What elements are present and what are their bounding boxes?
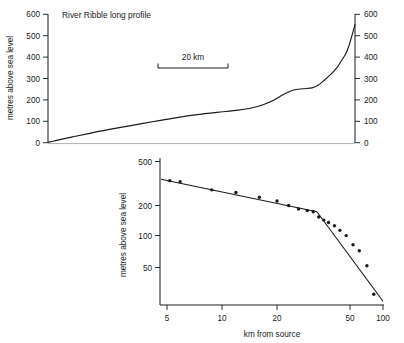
data-point — [372, 292, 375, 295]
upper-left-tick-label: 600 — [26, 10, 40, 19]
data-point — [358, 249, 361, 252]
data-point — [306, 209, 309, 212]
data-point — [258, 196, 261, 199]
upper-chart-ylabel: metres above sea level — [6, 36, 15, 120]
data-point — [210, 188, 213, 191]
data-point — [317, 215, 320, 218]
upper-left-tick-label: 200 — [26, 96, 40, 105]
lower-reach-fit-line — [317, 212, 383, 302]
upper-reach-fit-line — [161, 179, 317, 211]
river-long-profile-curve — [48, 25, 355, 143]
lower-y-tick-label: 50 — [143, 264, 153, 273]
data-point — [234, 191, 237, 194]
scale-bar: 20 km — [158, 53, 228, 68]
upper-left-tick-label: 400 — [26, 53, 40, 62]
data-point — [322, 218, 325, 221]
upper-left-tick-label: 0 — [35, 139, 40, 148]
upper-right-tick-label: 100 — [364, 117, 378, 126]
upper-left-ticks: 600 500 400 300 200 100 0 — [26, 10, 48, 147]
data-point — [338, 229, 341, 232]
scale-bar-label: 20 km — [182, 53, 204, 62]
data-point — [275, 199, 278, 202]
data-point — [344, 234, 347, 237]
data-point — [327, 221, 330, 224]
lower-x-tick-label: 20 — [272, 314, 282, 323]
upper-left-tick-label: 300 — [26, 75, 40, 84]
upper-left-tick-label: 100 — [26, 117, 40, 126]
lower-x-tick-label: 50 — [345, 314, 355, 323]
figure-svg: River Ribble long profile metres above s… — [0, 0, 404, 343]
lower-x-ticks: 5 10 20 50 100 — [165, 305, 391, 323]
data-point — [297, 207, 300, 210]
lower-chart: metres above sea level 500 200 100 50 5 … — [119, 158, 390, 340]
lower-x-tick-label: 5 — [165, 314, 170, 323]
upper-right-tick-label: 200 — [364, 96, 378, 105]
upper-right-tick-label: 0 — [364, 139, 369, 148]
data-point — [365, 264, 368, 267]
lower-x-tick-label: 10 — [217, 314, 227, 323]
data-point — [312, 210, 315, 213]
lower-y-tick-label: 200 — [138, 202, 152, 211]
upper-right-tick-label: 500 — [364, 32, 378, 41]
upper-right-tick-label: 600 — [364, 10, 378, 19]
lower-chart-xlabel: km from source — [244, 330, 301, 339]
lower-y-tick-label: 100 — [138, 232, 152, 241]
upper-left-tick-label: 500 — [26, 32, 40, 41]
scatter-points-group — [168, 179, 375, 296]
data-point — [333, 224, 336, 227]
data-point — [351, 243, 354, 246]
upper-chart: River Ribble long profile metres above s… — [6, 10, 378, 148]
upper-right-tick-label: 400 — [364, 53, 378, 62]
data-point — [168, 179, 171, 182]
lower-x-tick-label: 100 — [376, 314, 390, 323]
upper-right-ticks: 600 500 400 300 200 100 0 — [355, 10, 378, 147]
upper-right-tick-label: 300 — [364, 75, 378, 84]
lower-chart-ylabel: metres above sea level — [119, 193, 128, 277]
lower-y-ticks: 500 200 100 50 — [138, 158, 160, 273]
data-point — [287, 204, 290, 207]
upper-chart-title: River Ribble long profile — [62, 10, 151, 20]
figure-container: River Ribble long profile metres above s… — [0, 0, 404, 343]
lower-y-tick-label: 500 — [138, 158, 152, 167]
data-point — [178, 180, 181, 183]
